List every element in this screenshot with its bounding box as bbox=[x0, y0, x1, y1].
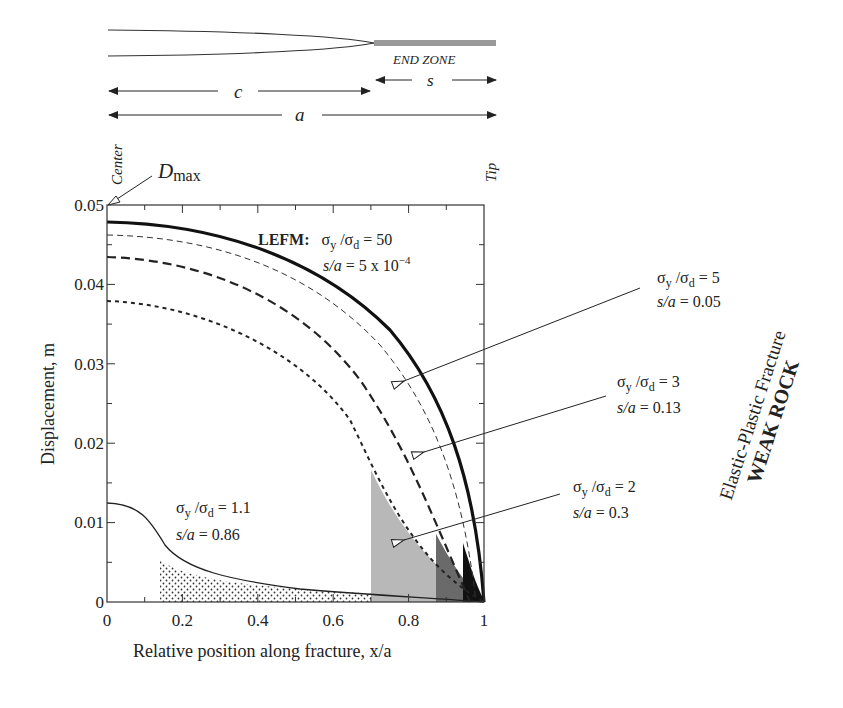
pointer-r5 bbox=[404, 288, 640, 381]
svg-text:0.03: 0.03 bbox=[74, 355, 104, 374]
end-zone-bar bbox=[374, 40, 496, 46]
x-tick-labels: 0 0.2 0.4 0.6 0.8 1 bbox=[103, 611, 489, 630]
annotation-lefm: LEFM: σy /σd = 50 s/a = 5 x 10−4 bbox=[258, 231, 411, 274]
svg-text:LEFM: σy /σd = 50: LEFM: σy /σd = 50 bbox=[258, 231, 392, 252]
x-axis-label: Relative position along fracture, x/a bbox=[133, 641, 391, 661]
svg-text:0: 0 bbox=[96, 593, 105, 612]
dmax-label: Dmax bbox=[157, 159, 201, 184]
svg-text:0.8: 0.8 bbox=[398, 611, 419, 630]
svg-text:0.6: 0.6 bbox=[323, 611, 344, 630]
svg-text:0: 0 bbox=[103, 611, 112, 630]
figure: END ZONE s c a Center Tip Dmax bbox=[0, 0, 843, 708]
y-tick-labels: 0 0.01 0.02 0.03 0.04 0.05 bbox=[74, 196, 104, 612]
svg-text:0.04: 0.04 bbox=[74, 275, 104, 294]
pointer-r3 bbox=[424, 396, 606, 452]
crack-upper-wall bbox=[108, 30, 374, 43]
svg-text:0.2: 0.2 bbox=[172, 611, 193, 630]
svg-text:σy /σd = 5: σy /σd = 5 bbox=[657, 269, 720, 290]
tip-label: Tip bbox=[483, 162, 499, 182]
svg-text:0.4: 0.4 bbox=[247, 611, 269, 630]
center-label: Center bbox=[109, 144, 125, 185]
annotation-r2: σy /σd = 2 s/a = 0.3 bbox=[573, 478, 636, 521]
pointer-r2 bbox=[404, 494, 560, 540]
y-ticks bbox=[107, 245, 484, 563]
annotation-r11: σy /σd = 1.1 s/a = 0.86 bbox=[176, 499, 251, 543]
svg-text:σy /σd = 1.1: σy /σd = 1.1 bbox=[176, 499, 251, 520]
svg-text:s/a = 0.13: s/a = 0.13 bbox=[617, 399, 681, 416]
curve-lefm bbox=[107, 222, 484, 602]
svg-text:0.05: 0.05 bbox=[74, 196, 104, 215]
fracture-schematic: END ZONE s c a Center Tip Dmax bbox=[108, 30, 499, 205]
svg-text:0.02: 0.02 bbox=[74, 434, 104, 453]
svg-text:s/a = 0.3: s/a = 0.3 bbox=[573, 504, 629, 521]
c-label: c bbox=[234, 81, 243, 102]
svg-text:1: 1 bbox=[480, 611, 489, 630]
end-zone-label: END ZONE bbox=[392, 52, 456, 67]
y-axis-label: Displacement, m bbox=[38, 343, 58, 465]
s-label: s bbox=[427, 71, 434, 90]
annotation-r3: σy /σd = 3 s/a = 0.13 bbox=[617, 373, 681, 416]
annotation-r5: σy /σd = 5 s/a = 0.05 bbox=[657, 269, 721, 310]
svg-text:σy /σd = 3: σy /σd = 3 bbox=[617, 373, 680, 394]
svg-text:s/a = 0.86: s/a = 0.86 bbox=[176, 526, 240, 543]
a-label: a bbox=[295, 104, 305, 125]
svg-text:σy /σd = 2: σy /σd = 2 bbox=[573, 478, 636, 499]
dmax-arrowhead bbox=[108, 196, 120, 205]
side-label: Elastic-Plastic Fracture WEAK ROCK bbox=[715, 328, 811, 509]
svg-text:s/a = 5 x 10−4: s/a = 5 x 10−4 bbox=[323, 254, 411, 274]
crack-lower-wall bbox=[108, 43, 374, 56]
svg-text:s/a = 0.05: s/a = 0.05 bbox=[657, 293, 721, 310]
svg-text:0.01: 0.01 bbox=[74, 513, 104, 532]
